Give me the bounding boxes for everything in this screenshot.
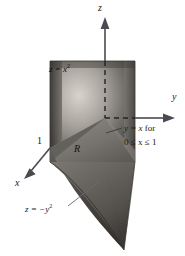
equation-back-base: z = x bbox=[49, 64, 67, 74]
equation-back-exponent: 2 bbox=[67, 63, 70, 69]
surface-lower-curved bbox=[50, 148, 135, 250]
axis-tick-label-one: 1 bbox=[37, 136, 42, 147]
axis-label-z: z bbox=[98, 3, 102, 14]
plane-line-range-caption: 0 ≤ x ≤ 1 bbox=[124, 138, 156, 147]
figure-3d-solid-diagram: z y x 1 R z = x2 z = −y2 y = x for 0 ≤ x… bbox=[0, 0, 185, 256]
axis-x bbox=[24, 148, 50, 179]
equation-bottom-base: z = −y bbox=[25, 204, 49, 214]
equation-label-lower-surface: z = −y2 bbox=[25, 203, 52, 214]
plane-line-equation: y = x bbox=[124, 123, 143, 133]
equation-bottom-exponent: 2 bbox=[49, 203, 52, 209]
plane-line-caption: y = x for bbox=[124, 124, 155, 133]
region-label-r: R bbox=[74, 144, 80, 155]
equation-label-back-surface: z = x2 bbox=[49, 63, 70, 74]
axis-z bbox=[101, 17, 110, 61]
axis-label-y: y bbox=[172, 92, 176, 103]
axis-label-x: x bbox=[15, 178, 19, 189]
diagram-canvas bbox=[0, 0, 185, 256]
plane-line-for-word: for bbox=[145, 123, 156, 133]
